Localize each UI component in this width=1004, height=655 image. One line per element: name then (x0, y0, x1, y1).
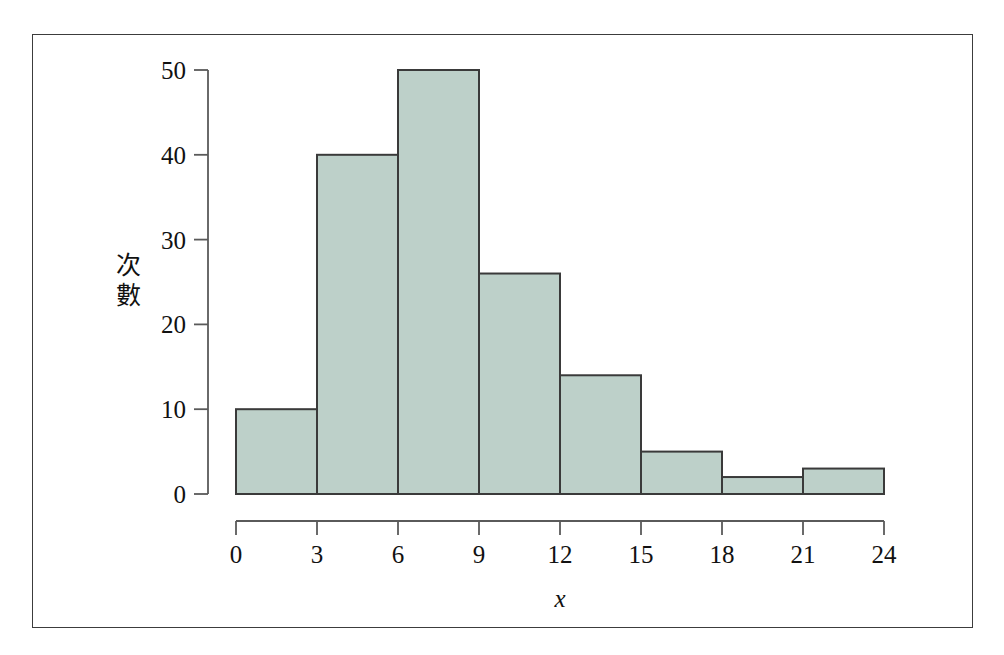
histogram-bar (398, 70, 479, 494)
y-axis (194, 70, 208, 494)
x-tick-label: 0 (230, 541, 243, 568)
x-tick-label: 21 (791, 541, 816, 568)
x-tick-label: 3 (311, 541, 324, 568)
x-axis-title: x (553, 585, 565, 612)
y-tick-label: 20 (161, 311, 186, 338)
histogram-bar (641, 452, 722, 494)
y-axis-title: 次 數 (108, 251, 148, 311)
histogram-bar (560, 375, 641, 494)
figure-page: 01020304050 03691215182124 x 次 數 (0, 0, 1004, 655)
x-tick-label: 15 (629, 541, 654, 568)
x-axis (236, 521, 884, 535)
y-axis-title-line-1: 次 (108, 251, 148, 281)
x-tick-label: 24 (872, 541, 898, 568)
x-tick-label: 18 (710, 541, 735, 568)
y-tick-label: 0 (174, 481, 187, 508)
plot-area: 01020304050 03691215182124 x 次 數 (0, 0, 1004, 655)
x-tick-labels: 03691215182124 (230, 541, 897, 568)
x-tick-label: 9 (473, 541, 486, 568)
x-tick-label: 12 (548, 541, 573, 568)
y-axis-title-line-2: 數 (108, 281, 148, 311)
bars-group (236, 70, 884, 494)
y-tick-label: 10 (161, 396, 186, 423)
histogram-bar (722, 477, 803, 494)
histogram-bar (479, 274, 560, 494)
histogram-bar (803, 469, 884, 494)
y-tick-label: 50 (161, 57, 186, 84)
y-tick-label: 40 (161, 142, 186, 169)
y-tick-label: 30 (161, 227, 186, 254)
histogram-chart: 01020304050 03691215182124 x (0, 0, 1004, 655)
y-tick-labels: 01020304050 (161, 57, 186, 508)
histogram-bar (317, 155, 398, 494)
histogram-bar (236, 409, 317, 494)
x-tick-label: 6 (392, 541, 405, 568)
